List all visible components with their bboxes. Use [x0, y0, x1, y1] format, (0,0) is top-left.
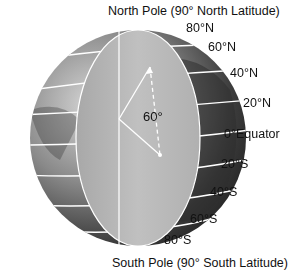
lat-label-equator: 0°Equator	[224, 127, 280, 141]
north-pole-label: North Pole (90° North Latitude)	[108, 4, 280, 18]
angle-label: 60°	[143, 109, 163, 124]
lat-label-80s: 80°S	[164, 233, 191, 247]
lat-label-60s: 60°S	[190, 212, 217, 226]
lat-label-40n: 40°N	[230, 66, 258, 80]
lat-label-60n: 60°N	[208, 40, 236, 54]
lat-label-80n: 80°N	[186, 21, 214, 35]
lat-label-40s: 40°S	[210, 185, 237, 199]
latitude-globe-diagram: North Pole (90° North Latitude) South Po…	[0, 0, 290, 276]
lat-label-20s: 20°S	[221, 157, 248, 171]
south-pole-label: South Pole (90° South Latitude)	[112, 256, 288, 270]
lat-label-20n: 20°N	[243, 96, 271, 110]
